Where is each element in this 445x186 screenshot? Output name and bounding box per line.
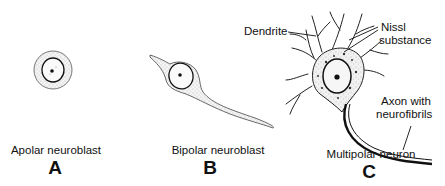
panel-c-caption: Multipolar neuron (322, 148, 420, 160)
panel-b-caption: Bipolar neuroblast (164, 144, 272, 156)
apolar-neuroblast-cell (34, 51, 72, 89)
panel-c-letter: C (354, 161, 384, 183)
dendrite-label: Dendrite (244, 25, 287, 38)
nissl-substance-label-line1: Nissl (381, 21, 406, 34)
bipolar-neuroblast-cell (150, 55, 274, 128)
axon-label-line2: neurofibrils (376, 108, 432, 121)
panel-a-letter: A (40, 157, 70, 179)
panel-a-caption: Apolar neuroblast (4, 144, 108, 156)
nissl-substance-label-line2: substance (379, 34, 431, 47)
axon-label-line1: Axon with (381, 95, 431, 108)
panel-b-letter: B (195, 157, 225, 179)
